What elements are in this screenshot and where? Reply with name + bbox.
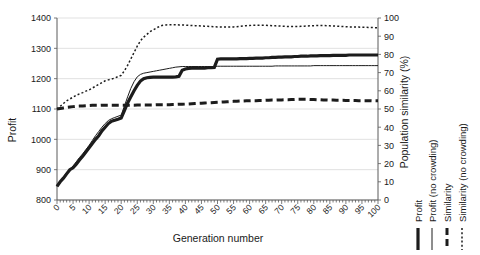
tick-label-y-left: 1000 — [31, 135, 51, 145]
legend-label: Profit (no crowding) — [427, 140, 438, 222]
tick-label-y-right: 80 — [384, 50, 394, 60]
tick-label-y-right: 50 — [384, 104, 394, 114]
tick-label-y-left: 900 — [36, 165, 51, 175]
tick-label-y-right: 10 — [384, 177, 394, 187]
tick-label-y-left: 1100 — [32, 104, 51, 114]
profit-similarity-line-chart: 80090010001100120013001400 0102030405060… — [0, 0, 480, 255]
y-axis-right-title: Population similarity (%) — [398, 56, 410, 169]
tick-label-y-left: 1300 — [31, 44, 51, 54]
legend-label: Similarity (no crowding) — [457, 123, 468, 222]
legend-label: Profit — [413, 199, 424, 222]
tick-label-y-left: 1400 — [31, 13, 51, 23]
tick-label-y-right: 20 — [384, 159, 394, 169]
legend-label: Similarity — [442, 183, 453, 222]
x-axis-ticks — [57, 200, 378, 204]
tick-label-y-right: 60 — [384, 86, 394, 96]
x-axis-title: Generation number — [173, 232, 264, 244]
tick-label-y-right: 100 — [384, 13, 399, 23]
tick-label-y-right: 40 — [384, 123, 394, 133]
y-axis-left-title: Profit — [6, 118, 18, 143]
tick-label-y-right: 30 — [384, 141, 394, 151]
tick-label-y-right: 90 — [384, 32, 394, 42]
tick-label-y-left: 800 — [36, 195, 51, 205]
tick-label-y-left: 1200 — [31, 74, 51, 84]
tick-label-y-right: 0 — [384, 195, 389, 205]
tick-label-y-right: 70 — [384, 68, 394, 78]
